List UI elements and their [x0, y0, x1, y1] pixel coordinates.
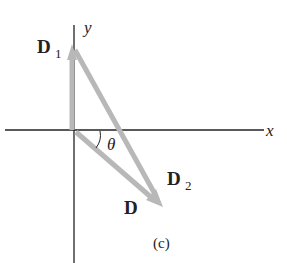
y-axis-label: y [82, 18, 92, 37]
caption: (c) [153, 235, 170, 252]
vector-d2 [75, 50, 156, 196]
d-label: D [124, 197, 138, 218]
x-axis-label: x [265, 121, 274, 140]
vector-d1 [67, 44, 77, 130]
angle-arc [96, 131, 101, 148]
theta-label: θ [107, 135, 115, 154]
d1-label: D [37, 36, 51, 57]
d2-label: D [167, 168, 181, 189]
vector-diagram: y x D 1 D 2 D θ (c) [0, 0, 287, 263]
d2-subscript: 2 [185, 178, 192, 193]
d1-subscript: 1 [55, 46, 62, 61]
vector-d [76, 132, 163, 207]
